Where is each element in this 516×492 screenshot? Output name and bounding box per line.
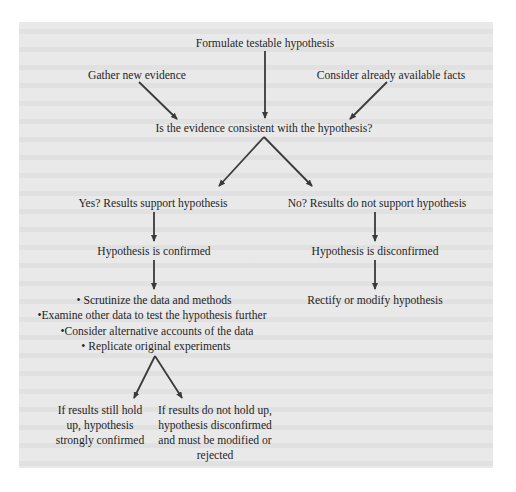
bullet: • xyxy=(81,340,85,353)
node-hypothesis-disconfirmed: Hypothesis is disconfirmed xyxy=(312,245,439,258)
arrow-gather-to-question xyxy=(139,82,177,119)
arrow-actions-to-strongly-confirmed xyxy=(134,356,155,398)
node-formulate-hypothesis: Formulate testable hypothesis xyxy=(196,37,334,50)
node-no-results: No? Results do not support hypothesis xyxy=(288,197,467,210)
action-item-4: • Replicate original experiments xyxy=(81,340,230,353)
arrow-consider-to-question xyxy=(350,82,387,119)
bullet: • xyxy=(76,294,80,307)
node-hypothesis-confirmed: Hypothesis is confirmed xyxy=(97,245,210,258)
node-gather-evidence: Gather new evidence xyxy=(88,69,186,82)
arrow-question-to-yes xyxy=(219,137,264,186)
arrow-actions-to-not-hold xyxy=(155,356,182,398)
action-item-3: •Consider alternative accounts of the da… xyxy=(60,325,253,338)
node-disconfirmed-modify: If results do not hold up, hypothesis di… xyxy=(154,403,276,463)
node-rectify-hypothesis: Rectify or modify hypothesis xyxy=(307,294,443,307)
action-item-1: • Scrutinize the data and methods xyxy=(76,294,231,307)
node-strongly-confirmed: If results still hold up, hypothesis str… xyxy=(52,403,148,448)
action-item-2: •Examine other data to test the hypothes… xyxy=(37,309,266,322)
node-yes-results: Yes? Results support hypothesis xyxy=(78,197,227,210)
node-consider-facts: Consider already available facts xyxy=(317,69,465,82)
node-question: Is the evidence consistent with the hypo… xyxy=(155,122,372,135)
arrow-question-to-no xyxy=(264,137,312,186)
